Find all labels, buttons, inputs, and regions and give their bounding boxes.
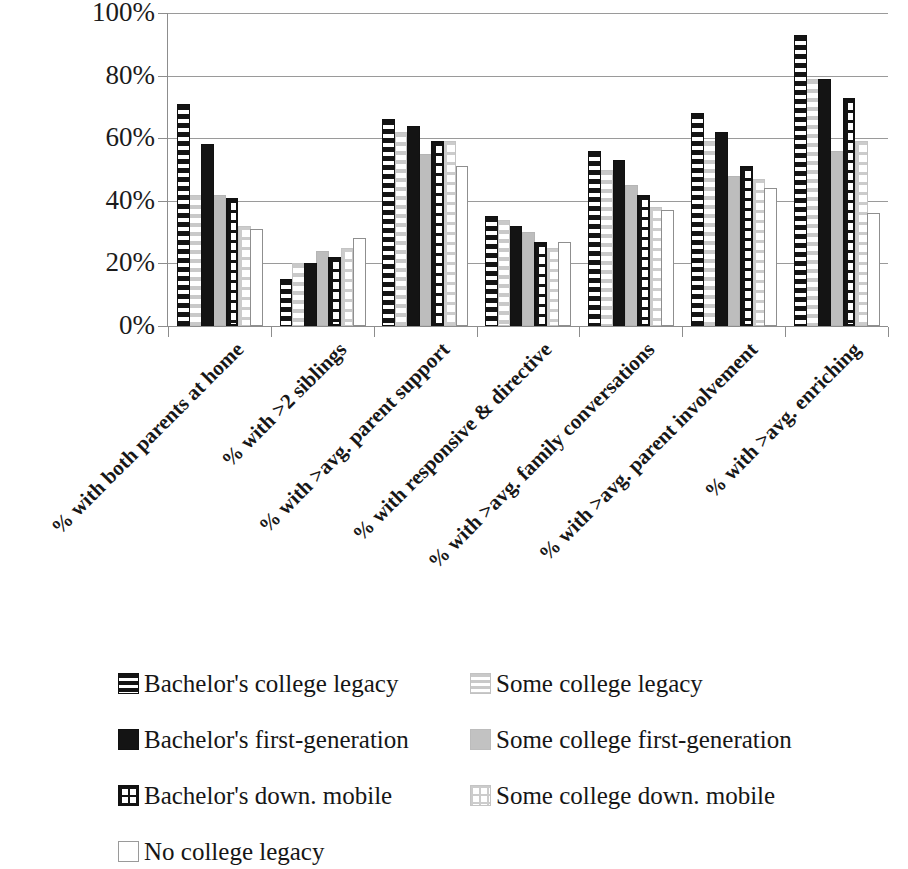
bar [637,195,650,326]
bar [238,226,251,326]
bar-group [785,13,888,326]
bar [546,248,559,326]
legend-item[interactable]: Some college first-generation [470,724,792,754]
bar [443,141,456,326]
y-axis-tick-mark [158,263,168,264]
bar [353,238,366,326]
bar [213,195,226,326]
bar [764,188,777,326]
legend-swatch-icon [470,729,491,750]
bar-group [271,13,374,326]
legend-item[interactable]: No college legacy [118,836,324,866]
bar [395,132,408,326]
bar [510,226,523,326]
y-axis: 0%20%40%60%80%100% [0,0,155,340]
bar-group [168,13,271,326]
legend-item-label: Some college legacy [496,670,703,697]
bar [316,251,329,326]
bar [728,176,741,326]
bar [691,113,704,326]
legend-swatch-icon [470,673,491,694]
y-axis-tick-mark [158,326,168,327]
bar [189,195,202,326]
bar [649,207,662,326]
legend-swatch-icon [118,785,139,806]
legend-swatch-icon [470,785,491,806]
bar [407,126,420,326]
bar [304,263,317,326]
y-axis-tick-label: 80% [5,62,155,89]
bar-group [579,13,682,326]
legend-item-label: Some college first-generation [496,726,792,753]
bar [328,257,341,326]
bar [806,79,819,326]
bar [830,151,843,326]
bar [715,132,728,326]
legend-item[interactable]: Some college down. mobile [470,780,775,810]
bar [341,248,354,326]
legend-item[interactable]: Bachelor's first-generation [118,724,409,754]
plot-area [168,13,888,326]
legend-swatch-icon [118,841,139,862]
bar [855,141,868,326]
bar [600,170,613,327]
bar [588,151,601,326]
bar-chart: 0%20%40%60%80%100% % with both parents a… [0,0,908,869]
bar [201,144,214,326]
y-axis-tick-mark [158,138,168,139]
bar [226,198,239,326]
legend-item[interactable]: Bachelor's down. mobile [118,780,392,810]
bar [625,185,638,326]
legend-swatch-icon [118,673,139,694]
chart-legend: Bachelor's college legacyBachelor's firs… [118,668,908,868]
bar [661,210,674,326]
bar [419,154,432,326]
bar [843,98,856,326]
legend-item[interactable]: Some college legacy [470,668,703,698]
y-axis-tick-label: 100% [5,0,155,26]
legend-item-label: Some college down. mobile [496,782,775,809]
x-axis-line [167,326,888,327]
y-axis-tick-label: 60% [5,124,155,151]
y-axis-tick-mark [158,201,168,202]
bar [456,166,469,326]
bar [280,279,293,326]
legend-item-label: No college legacy [144,838,324,865]
bar [794,35,807,326]
bar-group [477,13,580,326]
y-axis-tick-label: 40% [5,187,155,214]
bar [740,166,753,326]
bar [867,213,880,326]
legend-item-label: Bachelor's first-generation [144,726,409,753]
y-axis-tick-mark [158,76,168,77]
bar [558,242,571,327]
legend-swatch-icon [118,729,139,750]
bar [522,232,535,326]
legend-item[interactable]: Bachelor's college legacy [118,668,398,698]
bar [818,79,831,326]
bar-group [682,13,785,326]
y-axis-tick-mark [158,13,168,14]
legend-item-label: Bachelor's down. mobile [144,782,392,809]
bar [485,216,498,326]
bar [703,141,716,326]
bar [534,242,547,327]
bar-group [374,13,477,326]
legend-item-label: Bachelor's college legacy [144,670,398,697]
bar [752,179,765,326]
bar [613,160,626,326]
x-axis-category-labels: % with both parents at home% with >2 sib… [0,330,908,650]
bar [250,229,263,326]
y-axis-tick-label: 20% [5,249,155,276]
bar [431,141,444,326]
bar [292,263,305,326]
bar [177,104,190,326]
bar [498,220,511,326]
bar [382,119,395,326]
